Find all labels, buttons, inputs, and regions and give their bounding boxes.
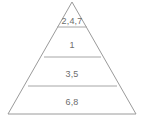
pyramid-level-3-label: 3,5 — [65, 69, 78, 79]
pyramid-diagram: 2,4,7 1 3,5 6,8 — [0, 0, 143, 121]
pyramid-level-1-label: 2,4,7 — [61, 16, 82, 26]
pyramid-level-2-label: 1 — [69, 40, 74, 50]
pyramid-level-4-label: 6,8 — [65, 97, 78, 107]
